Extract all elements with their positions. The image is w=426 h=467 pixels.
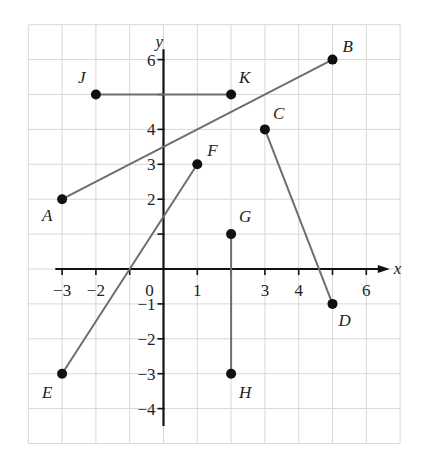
axes <box>55 49 389 426</box>
x-tick-label: 1 <box>193 281 202 300</box>
point-label-k: K <box>238 68 252 87</box>
y-axis-label: y <box>154 32 164 51</box>
point-d <box>328 299 338 309</box>
point-label-b: B <box>343 37 354 56</box>
grid <box>28 25 400 444</box>
x-axis-label: x <box>393 259 402 278</box>
point-b <box>328 55 338 65</box>
point-g <box>226 229 236 239</box>
point-label-f: F <box>206 141 218 160</box>
x-tick-label: −2 <box>87 281 105 300</box>
y-tick-label: 2 <box>147 190 156 209</box>
point-h <box>226 369 236 379</box>
point-f <box>192 159 202 169</box>
point-label-g: G <box>239 207 251 226</box>
x-tick-label: −3 <box>53 281 71 300</box>
y-tick-label: 3 <box>147 155 156 174</box>
point-label-h: H <box>238 383 253 402</box>
point-j <box>91 90 101 100</box>
point-label-j: J <box>78 68 87 87</box>
point-a <box>57 194 67 204</box>
x-tick-label: 6 <box>362 281 371 300</box>
y-tick-label: −3 <box>137 365 155 384</box>
point-label-e: E <box>41 383 53 402</box>
y-tick-label: 4 <box>147 120 156 139</box>
point-label-c: C <box>273 104 285 123</box>
y-tick-label: −4 <box>137 400 156 419</box>
point-label-a: A <box>41 206 53 225</box>
point-c <box>260 124 270 134</box>
point-e <box>57 369 67 379</box>
y-tick-label: 6 <box>147 51 156 70</box>
coordinate-plane: −3−213466432−1−2−3−40xyABCDEFGHJK <box>0 0 426 467</box>
y-tick-label: −2 <box>137 330 155 349</box>
origin-label: 0 <box>145 281 154 300</box>
x-tick-label: 3 <box>261 281 270 300</box>
point-k <box>226 90 236 100</box>
x-tick-label: 4 <box>294 281 303 300</box>
x-axis-arrow-icon <box>378 265 390 273</box>
point-label-d: D <box>338 311 352 330</box>
